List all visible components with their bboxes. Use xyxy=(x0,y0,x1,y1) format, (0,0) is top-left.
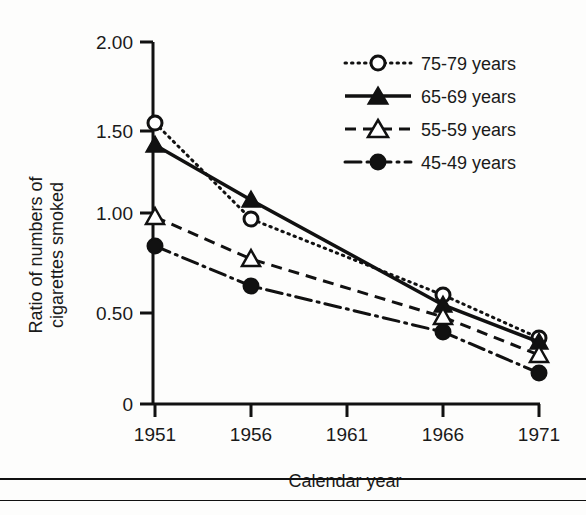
x-tick-label-1971: 1971 xyxy=(518,424,560,445)
series-55-59-line xyxy=(155,217,539,355)
legend-item-45-49[interactable]: 45-49 years xyxy=(345,153,516,173)
x-tick-label-1961: 1961 xyxy=(326,424,368,445)
legend: 75-79 years 65-69 years 55-59 years 45-4… xyxy=(345,54,516,173)
legend-label-45-49: 45-49 years xyxy=(421,153,516,173)
x-tick-label-1966: 1966 xyxy=(422,424,464,445)
series-55-59 xyxy=(146,208,548,362)
x-tick-label-1956: 1956 xyxy=(230,424,272,445)
legend-label-55-59: 55-59 years xyxy=(421,120,516,140)
series-45-49-point-1966 xyxy=(436,325,451,340)
series-55-59-point-1951 xyxy=(146,208,164,224)
series-75-79-point-1956 xyxy=(244,212,258,226)
filled-circle-icon xyxy=(371,155,386,170)
chart-figure: 2.00 1.50 1.00 0.50 0 1951 1956 1961 196… xyxy=(0,0,586,515)
x-axis-ticks xyxy=(155,404,539,417)
series-65-69-point-1956 xyxy=(242,191,260,207)
y-tick-label-1-00: 1.00 xyxy=(96,203,133,224)
series-75-79 xyxy=(148,116,546,345)
series-75-79-point-1951 xyxy=(148,116,162,130)
series-45-49 xyxy=(148,239,547,381)
y-axis-title-line1: Ratio of numbers of xyxy=(26,175,46,333)
y-axis-title-line2: cigarettes smoked xyxy=(47,182,67,328)
y-tick-label-1-50: 1.50 xyxy=(96,121,133,142)
line-chart: 2.00 1.50 1.00 0.50 0 1951 1956 1961 196… xyxy=(0,0,586,515)
y-axis-title: Ratio of numbers of cigarettes smoked xyxy=(26,175,67,333)
y-tick-label-2-00: 2.00 xyxy=(96,32,133,53)
legend-label-75-79: 75-79 years xyxy=(421,54,516,74)
series-45-49-point-1971 xyxy=(532,366,547,381)
figure-rule-bottom xyxy=(0,500,586,501)
y-tick-label-0-50: 0.50 xyxy=(96,303,133,324)
legend-item-55-59[interactable]: 55-59 years xyxy=(345,120,516,140)
series-65-69-point-1951 xyxy=(146,136,164,152)
x-tick-label-1951: 1951 xyxy=(134,424,176,445)
x-axis-title: Calendar year xyxy=(288,471,401,491)
series-45-49-point-1956 xyxy=(244,279,259,294)
legend-item-75-79[interactable]: 75-79 years xyxy=(345,54,516,74)
series-45-49-line xyxy=(155,246,539,373)
open-circle-icon xyxy=(371,56,385,70)
y-tick-label-0: 0 xyxy=(122,394,133,415)
legend-item-65-69[interactable]: 65-69 years xyxy=(345,87,516,107)
series-55-59-point-1956 xyxy=(242,250,260,266)
series-45-49-point-1951 xyxy=(148,239,163,254)
legend-label-65-69: 65-69 years xyxy=(421,87,516,107)
figure-rule-top xyxy=(0,478,586,480)
